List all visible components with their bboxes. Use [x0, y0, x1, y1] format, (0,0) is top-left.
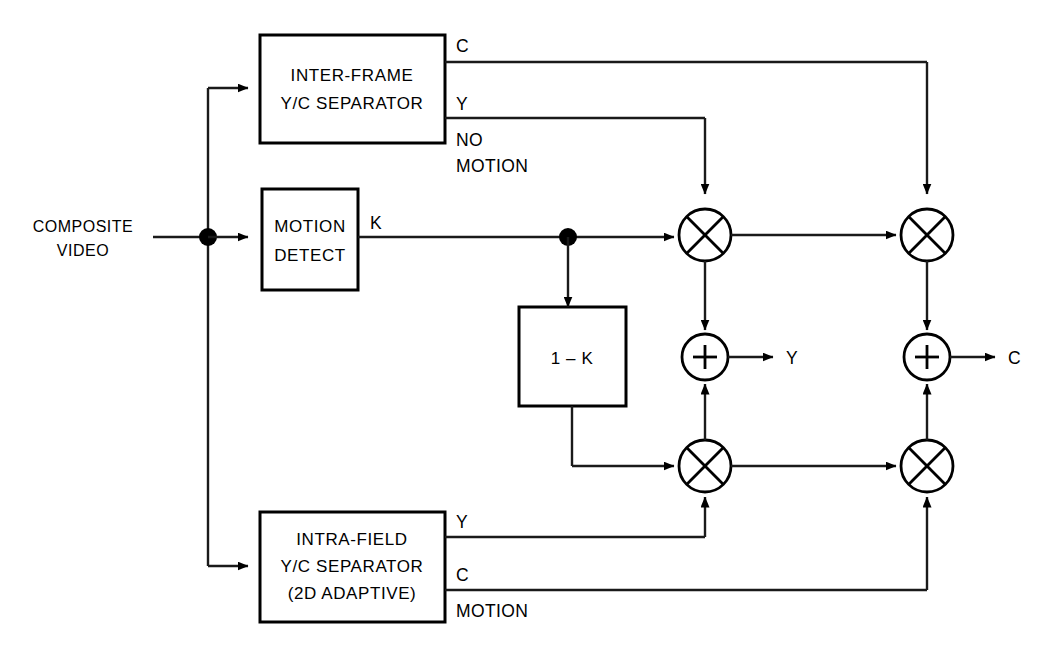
label-no-motion-line2: MOTION — [456, 156, 528, 176]
intra-field-label-line3: (2D ADAPTIVE) — [288, 584, 417, 603]
block-diagram-canvas: INTER-FRAME Y/C SEPARATOR MOTION DETECT … — [0, 0, 1057, 666]
one-minus-k-output-path — [572, 406, 674, 466]
diagram-svg: INTER-FRAME Y/C SEPARATOR MOTION DETECT … — [0, 0, 1057, 666]
inter-frame-label-line1: INTER-FRAME — [291, 66, 414, 85]
composite-video-label-line2: VIDEO — [57, 242, 109, 259]
intra-field-label-line1: INTRA-FIELD — [296, 530, 407, 549]
label-inter-frame-c: C — [456, 36, 469, 56]
label-intra-field-c: C — [456, 565, 469, 585]
adder-left[interactable] — [682, 261, 773, 440]
label-output-c: C — [1008, 348, 1021, 368]
block-intra-field-yc-separator[interactable]: INTRA-FIELD Y/C SEPARATOR (2D ADAPTIVE) — [260, 512, 445, 622]
block-motion-detect[interactable]: MOTION DETECT — [262, 189, 358, 290]
motion-detect-label-line1: MOTION — [274, 217, 346, 236]
label-k: K — [370, 213, 382, 233]
multiplier-top-right[interactable] — [901, 209, 953, 261]
label-motion: MOTION — [456, 601, 528, 621]
label-output-y: Y — [786, 348, 798, 368]
k-signal-path — [358, 228, 674, 307]
intra-field-label-line2: Y/C SEPARATOR — [281, 557, 424, 576]
multiplier-bottom-left[interactable] — [679, 440, 731, 492]
label-inter-frame-y: Y — [456, 94, 468, 114]
intra-field-y-path — [445, 497, 705, 537]
label-no-motion-line1: NO — [456, 130, 483, 150]
adder-right[interactable] — [904, 261, 995, 440]
inter-frame-block-rect[interactable] — [260, 35, 445, 143]
block-inter-frame-yc-separator[interactable]: INTER-FRAME Y/C SEPARATOR — [260, 35, 445, 143]
motion-detect-label-line2: DETECT — [274, 246, 346, 265]
label-intra-field-y: Y — [456, 512, 468, 532]
multiplier-bottom-right[interactable] — [901, 440, 953, 492]
multiplier-top-left[interactable] — [679, 209, 731, 261]
intra-field-c-path — [445, 497, 927, 590]
block-one-minus-k[interactable]: 1 – K — [519, 307, 626, 406]
input-bus-group — [153, 88, 248, 566]
inter-frame-label-line2: Y/C SEPARATOR — [281, 94, 424, 113]
one-minus-k-label: 1 – K — [551, 349, 594, 368]
motion-detect-block-rect[interactable] — [262, 189, 358, 290]
composite-video-label-line1: COMPOSITE — [33, 218, 134, 235]
